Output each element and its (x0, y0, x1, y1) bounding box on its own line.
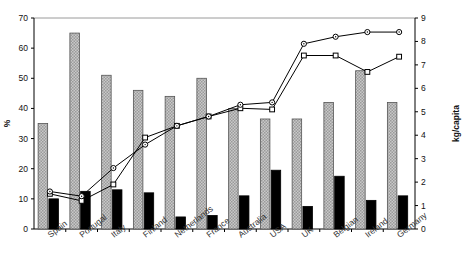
svg-text:70: 70 (19, 13, 29, 23)
svg-text:20: 20 (19, 164, 29, 174)
combo-chart: 010203040506070 0123456789 SpainPortugal… (0, 0, 467, 269)
y-axis-right-title: kg/capita (451, 105, 461, 142)
square-marker (301, 53, 306, 58)
svg-text:30: 30 (19, 134, 29, 144)
y-axis-right: 0123456789 (415, 13, 426, 234)
x-axis-category-label: Italy (109, 222, 128, 240)
svg-text:7: 7 (421, 60, 426, 70)
svg-text:2: 2 (421, 177, 426, 187)
circle-line-series (47, 29, 401, 198)
y-axis-left-title: % (2, 119, 12, 127)
svg-text:50: 50 (19, 73, 29, 83)
square-marker (111, 182, 116, 187)
square-marker (397, 54, 402, 59)
svg-text:6: 6 (421, 83, 426, 93)
svg-text:1: 1 (421, 201, 426, 211)
grey-bar (38, 124, 48, 230)
y-axis-left: 010203040506070 (19, 13, 34, 234)
grey-bar (102, 75, 112, 229)
square-marker (143, 135, 148, 140)
svg-text:8: 8 (421, 36, 426, 46)
grey-bar (292, 119, 302, 229)
grey-bar (324, 102, 334, 229)
grey-bar (229, 108, 239, 229)
square-marker (333, 53, 338, 58)
svg-text:4: 4 (421, 130, 426, 140)
svg-text:10: 10 (19, 194, 29, 204)
black-bar (271, 170, 281, 229)
svg-text:0: 0 (421, 224, 426, 234)
svg-text:60: 60 (19, 43, 29, 53)
grey-bar (387, 102, 397, 229)
square-line-series (47, 53, 401, 203)
black-bar (335, 176, 345, 229)
svg-text:0: 0 (23, 224, 28, 234)
svg-text:9: 9 (421, 13, 426, 23)
square-marker (365, 70, 370, 75)
svg-text:3: 3 (421, 154, 426, 164)
svg-text:40: 40 (19, 103, 29, 113)
svg-text:5: 5 (421, 107, 426, 117)
grey-bar (133, 90, 143, 229)
grey-bar (165, 96, 175, 229)
square-marker (270, 107, 275, 112)
chart-container: 010203040506070 0123456789 SpainPortugal… (0, 0, 467, 269)
grey-bar (356, 71, 366, 229)
